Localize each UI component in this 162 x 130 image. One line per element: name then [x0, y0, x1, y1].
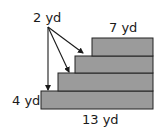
step-4: [92, 38, 153, 56]
step-2: [58, 73, 153, 91]
step-1: [41, 91, 153, 109]
bottom-height-label: 4 yd: [12, 93, 40, 108]
arrow-to-step-2-icon: [48, 27, 69, 72]
top-width-label: 7 yd: [109, 20, 137, 35]
arrow-to-step-3-icon: [48, 27, 83, 53]
step-3: [75, 56, 153, 73]
staircase-diagram: 2 yd 7 yd 4 yd 13 yd: [0, 0, 162, 130]
bottom-width-label: 13 yd: [82, 112, 119, 127]
step-height-label: 2 yd: [33, 10, 61, 25]
